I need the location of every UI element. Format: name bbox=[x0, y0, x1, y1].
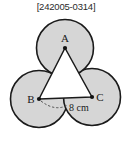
vertex-label-c: C bbox=[96, 91, 103, 103]
vertex-label-b: B bbox=[27, 93, 34, 105]
dimension-label-8cm: 8 cm bbox=[69, 102, 89, 113]
vertex-dot-b bbox=[37, 97, 41, 101]
vertex-label-a: A bbox=[61, 32, 69, 44]
vertex-dot-c bbox=[90, 95, 94, 99]
vertex-dot-a bbox=[63, 46, 67, 50]
three-tangent-circles-diagram: A B C 8 cm bbox=[0, 0, 132, 141]
geometry-figure-container: [242005-0314] A B C 8 cm bbox=[0, 0, 132, 141]
